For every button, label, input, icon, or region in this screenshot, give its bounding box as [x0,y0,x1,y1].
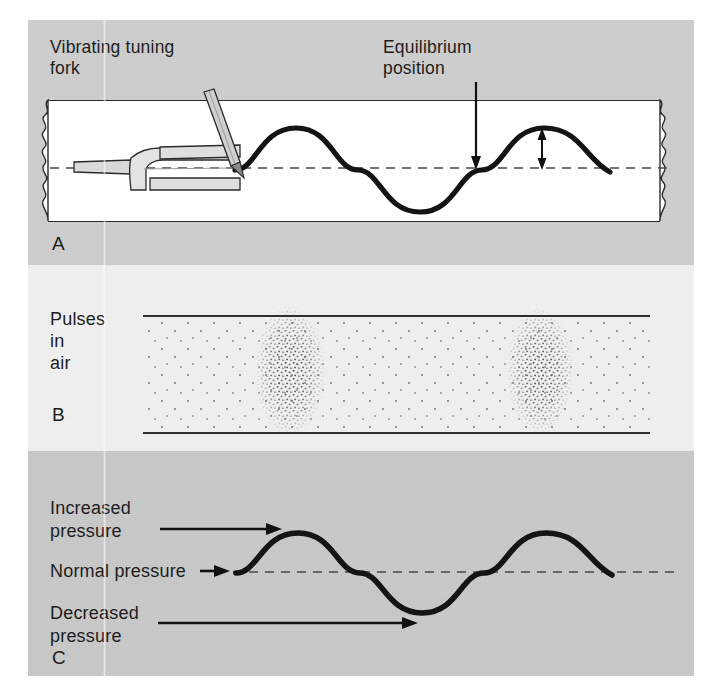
normal-pressure-arrow [200,565,230,577]
panel-c-graphics [28,451,694,676]
panel-a-graphics [28,20,694,265]
compression-band-2 [500,307,586,437]
increased-pressure-arrow [160,523,282,535]
decreased-pressure-arrow [158,617,418,629]
pressure-wave [236,533,612,613]
panel-b: Pulses in air [28,265,694,451]
panel-letter-c: C [52,647,66,669]
displacement-wave [235,128,610,212]
compression-band-1 [248,305,338,439]
amplitude-arrow [538,128,547,170]
equilibrium-arrow [471,82,481,170]
torn-edge-left-icon [42,100,48,221]
panel-letter-b: B [52,404,65,426]
stylus-icon [204,89,244,178]
panel-b-graphics [28,265,694,451]
torn-edge-right-icon [660,100,666,221]
panel-c: Increased pressure Normal pressure Decre… [28,451,694,676]
panel-a: Vibrating tuning fork Equilibrium positi… [28,20,694,265]
panel-letter-a: A [52,233,65,255]
sound-wave-figure: Vibrating tuning fork Equilibrium positi… [28,20,694,676]
